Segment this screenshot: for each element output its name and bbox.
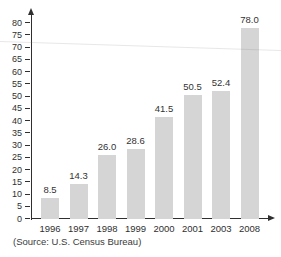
y-tick-label: 0 bbox=[0, 214, 22, 224]
y-tick bbox=[25, 83, 30, 84]
y-tick-label: 65 bbox=[0, 54, 22, 64]
y-tick bbox=[25, 96, 30, 97]
y-tick-label: 60 bbox=[0, 67, 22, 77]
y-tick-label: 55 bbox=[0, 79, 22, 89]
bar-value-label: 8.5 bbox=[30, 184, 70, 195]
y-tick bbox=[25, 59, 30, 60]
y-tick bbox=[25, 71, 30, 72]
y-tick-label: 25 bbox=[0, 152, 22, 162]
bar bbox=[70, 184, 88, 219]
y-tick bbox=[25, 218, 30, 219]
scan-artifact-line bbox=[0, 41, 281, 51]
y-tick bbox=[25, 206, 30, 207]
y-tick-label: 20 bbox=[0, 165, 22, 175]
bar bbox=[41, 198, 59, 219]
bar bbox=[127, 149, 145, 219]
y-tick-label: 35 bbox=[0, 128, 22, 138]
y-tick bbox=[25, 108, 30, 109]
bar-value-label: 78.0 bbox=[230, 14, 270, 25]
y-tick-label: 45 bbox=[0, 103, 22, 113]
y-tick-label: 30 bbox=[0, 140, 22, 150]
x-axis-line bbox=[31, 218, 268, 219]
y-tick bbox=[25, 22, 30, 23]
y-tick-label: 75 bbox=[0, 30, 22, 40]
y-tick bbox=[25, 132, 30, 133]
y-tick-label: 15 bbox=[0, 177, 22, 187]
bar-chart-figure: 05101520253035404550556065707580 8.514.3… bbox=[0, 0, 281, 257]
x-category-label: 2008 bbox=[230, 223, 270, 234]
x-axis-arrow-icon bbox=[268, 215, 275, 221]
bar bbox=[184, 95, 202, 219]
bar bbox=[212, 91, 230, 219]
y-tick bbox=[25, 181, 30, 182]
source-note: (Source: U.S. Census Bureau) bbox=[13, 236, 141, 248]
y-tick-label: 10 bbox=[0, 189, 22, 199]
y-axis-arrow-icon bbox=[28, 8, 34, 15]
y-tick-label: 40 bbox=[0, 116, 22, 126]
y-tick bbox=[25, 157, 30, 158]
bar-value-label: 28.6 bbox=[116, 135, 156, 146]
y-tick-label: 80 bbox=[0, 18, 22, 28]
y-tick bbox=[25, 145, 30, 146]
y-tick-label: 50 bbox=[0, 91, 22, 101]
y-tick bbox=[25, 120, 30, 121]
bar bbox=[241, 28, 259, 219]
bar bbox=[98, 155, 116, 219]
y-tick bbox=[25, 169, 30, 170]
y-tick bbox=[25, 34, 30, 35]
bar bbox=[155, 117, 173, 219]
y-tick-label: 5 bbox=[0, 201, 22, 211]
bar-value-label: 52.4 bbox=[201, 77, 241, 88]
bar-value-label: 14.3 bbox=[59, 170, 99, 181]
bar-value-label: 41.5 bbox=[144, 103, 184, 114]
y-tick-label: 70 bbox=[0, 42, 22, 52]
y-tick bbox=[25, 47, 30, 48]
